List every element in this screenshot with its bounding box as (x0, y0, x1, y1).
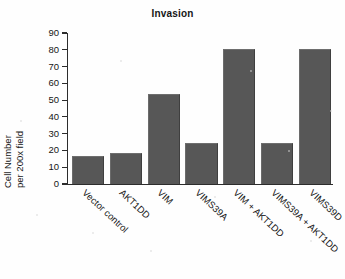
x-axis-tick-label: VIMS39A + AKT1DD (269, 187, 340, 255)
y-axis-title-line-1: Cell Number (2, 135, 13, 188)
y-axis-title: Cell Number per 200x field (2, 78, 16, 188)
y-axis-tick-mark: 40 (62, 116, 67, 117)
scan-speckle (288, 150, 290, 152)
y-axis-tick-mark: 0 (62, 183, 67, 184)
y-axis-tick-mark: 50 (62, 100, 67, 101)
x-axis-tick-label: VIMS39A (194, 187, 231, 222)
y-axis-tick-label: 90 (48, 28, 59, 38)
y-axis-tick-label: 0 (54, 179, 59, 189)
scan-speckle (330, 110, 332, 112)
y-axis-tick-label: 80 (48, 45, 59, 55)
scan-speckle (120, 60, 122, 62)
y-axis-tick-mark: 80 (62, 49, 67, 50)
scan-speckle (92, 232, 94, 234)
x-axis-tick-labels: Vector controlAKT1DDVIMVIMS39AVIM + AKT1… (68, 187, 345, 279)
chart-title: Invasion (0, 8, 345, 19)
x-axis-tick-label: VIMS39D (307, 187, 344, 223)
y-axis-tick-mark: 30 (62, 133, 67, 134)
y-axis-tick-label: 60 (48, 79, 59, 89)
plot-area: 0102030405060708090 (68, 33, 333, 184)
y-axis-tick-mark: 20 (62, 150, 67, 151)
scan-speckle (250, 70, 252, 72)
x-axis-tick-label: VIM (156, 187, 176, 207)
y-axis-tick-label: 10 (48, 162, 59, 172)
x-axis-tick-label: AKT1DD (118, 187, 153, 221)
y-axis-tick-label: 50 (48, 95, 59, 105)
scan-speckle (20, 120, 22, 122)
scan-speckle (310, 240, 312, 242)
y-axis-title-line-2: per 200x field (14, 131, 25, 188)
bar (110, 153, 142, 184)
y-axis-tick-label: 70 (48, 62, 59, 72)
y-axis-tick-mark: 90 (62, 32, 67, 33)
y-axis-tick-label: 30 (48, 129, 59, 139)
y-axis-tick-label: 40 (48, 112, 59, 122)
scan-speckle (36, 214, 38, 216)
scan-speckle (214, 196, 216, 198)
y-axis-tick-mark: 70 (62, 66, 67, 67)
y-axis-tick-mark: 10 (62, 167, 67, 168)
y-axis-tick-label: 20 (48, 146, 59, 156)
bar (261, 143, 293, 184)
chart-figure: Invasion Cell Number per 200x field 0102… (0, 0, 345, 279)
bar (299, 49, 331, 184)
bar-series (68, 33, 333, 184)
bar (148, 94, 180, 184)
bar (72, 156, 104, 184)
bar (185, 143, 217, 184)
y-axis-tick-mark: 60 (62, 83, 67, 84)
scan-speckle (150, 250, 152, 252)
